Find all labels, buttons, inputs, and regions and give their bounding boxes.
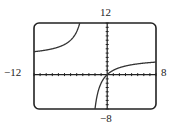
graph-window xyxy=(0,0,174,128)
viewing-window-frame xyxy=(34,23,156,109)
axes xyxy=(34,23,156,109)
